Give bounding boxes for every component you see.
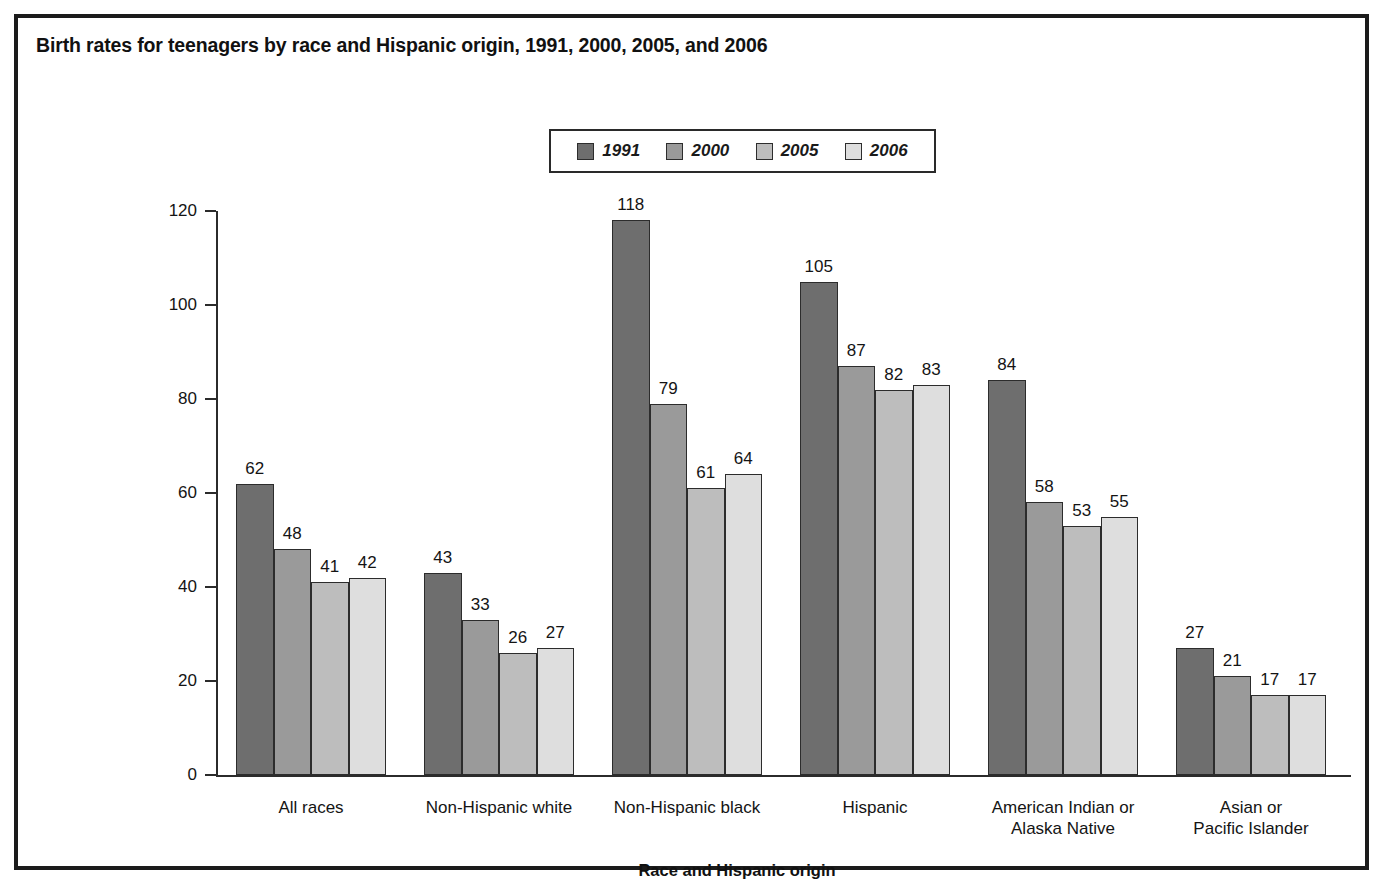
- legend-swatch-2005: [756, 143, 773, 160]
- legend-label-2005: 2005: [781, 141, 819, 161]
- group-label: Non-Hispanic white: [426, 797, 572, 818]
- legend-item-2005[interactable]: 2005: [756, 141, 819, 161]
- legend-label-2006: 2006: [870, 141, 908, 161]
- y-tick-label-120: 120: [135, 201, 197, 221]
- bar-value-label: 48: [283, 524, 302, 544]
- legend-swatch-1991: [577, 143, 594, 160]
- bar[interactable]: [875, 390, 913, 775]
- bar-value-label: 118: [617, 195, 644, 215]
- bar-value-label: 42: [358, 553, 377, 573]
- group-label-line: Non-Hispanic black: [614, 797, 760, 818]
- bar[interactable]: [1101, 517, 1139, 776]
- bar-value-label: 55: [1110, 492, 1129, 512]
- group-label-line: Pacific Islander: [1193, 818, 1308, 839]
- bar-value-label: 64: [734, 449, 753, 469]
- bar-value-label: 41: [320, 557, 339, 577]
- group-label: American Indian orAlaska Native: [992, 797, 1135, 839]
- legend-swatch-2000: [666, 143, 683, 160]
- bar[interactable]: [1214, 676, 1252, 775]
- y-tick-label-20: 20: [135, 671, 197, 691]
- bar-value-label: 17: [1298, 670, 1317, 690]
- x-axis-title: Race and Hispanic origin: [117, 861, 1357, 880]
- legend-item-2006[interactable]: 2006: [845, 141, 908, 161]
- bar-value-label: 82: [884, 365, 903, 385]
- bar-value-label: 53: [1072, 501, 1091, 521]
- bar-value-label: 21: [1223, 651, 1242, 671]
- bar[interactable]: [1251, 695, 1289, 775]
- bar[interactable]: [687, 488, 725, 775]
- y-tick-100: [205, 304, 216, 306]
- bar[interactable]: [838, 366, 876, 775]
- x-axis-line: [216, 775, 1351, 777]
- bar-value-label: 87: [847, 341, 866, 361]
- bar[interactable]: [612, 220, 650, 775]
- bar-value-label: 17: [1260, 670, 1279, 690]
- group-label-line: Asian or: [1193, 797, 1308, 818]
- bar[interactable]: [988, 380, 1026, 775]
- y-axis-line: [216, 211, 218, 777]
- bar[interactable]: [274, 549, 312, 775]
- bar-value-label: 62: [245, 459, 264, 479]
- bar-value-label: 26: [508, 628, 527, 648]
- group-label: All races: [278, 797, 343, 818]
- bar[interactable]: [349, 578, 387, 775]
- bar-value-label: 27: [546, 623, 565, 643]
- group-label-line: Hispanic: [842, 797, 907, 818]
- chart-legend: 1991 2000 2005 2006: [549, 129, 936, 173]
- figure-frame: Birth rates for teenagers by race and Hi…: [14, 14, 1369, 870]
- legend-item-2000[interactable]: 2000: [666, 141, 729, 161]
- bar[interactable]: [424, 573, 462, 775]
- plot-area: Rate per 1,000 females in specified grou…: [117, 211, 1357, 806]
- bar[interactable]: [236, 484, 274, 775]
- y-tick-40: [205, 586, 216, 588]
- chart-title: Birth rates for teenagers by race and Hi…: [36, 34, 767, 57]
- group-label: Asian orPacific Islander: [1193, 797, 1308, 839]
- legend-item-1991[interactable]: 1991: [577, 141, 640, 161]
- bar-value-label: 58: [1035, 477, 1054, 497]
- y-tick-label-100: 100: [135, 295, 197, 315]
- bar[interactable]: [311, 582, 349, 775]
- bar-value-label: 79: [659, 379, 678, 399]
- bar[interactable]: [650, 404, 688, 775]
- bar[interactable]: [800, 282, 838, 776]
- bar-value-label: 43: [433, 548, 452, 568]
- y-tick-80: [205, 398, 216, 400]
- bar[interactable]: [1026, 502, 1064, 775]
- bar-value-label: 61: [696, 463, 715, 483]
- bar-value-label: 27: [1185, 623, 1204, 643]
- group-label: Hispanic: [842, 797, 907, 818]
- bar-value-label: 84: [997, 355, 1016, 375]
- bar-value-label: 105: [805, 257, 833, 277]
- y-tick-120: [205, 210, 216, 212]
- bar[interactable]: [1063, 526, 1101, 775]
- bar[interactable]: [499, 653, 537, 775]
- y-tick-label-60: 60: [135, 483, 197, 503]
- y-tick-label-40: 40: [135, 577, 197, 597]
- y-tick-20: [205, 680, 216, 682]
- group-label-line: American Indian or: [992, 797, 1135, 818]
- y-tick-60: [205, 492, 216, 494]
- bar[interactable]: [725, 474, 763, 775]
- bar[interactable]: [1289, 695, 1327, 775]
- bar-value-label: 33: [471, 595, 490, 615]
- group-label-line: Alaska Native: [992, 818, 1135, 839]
- legend-label-2000: 2000: [691, 141, 729, 161]
- y-tick-label-0: 0: [135, 765, 197, 785]
- bar[interactable]: [913, 385, 951, 775]
- bar[interactable]: [462, 620, 500, 775]
- y-tick-label-80: 80: [135, 389, 197, 409]
- y-tick-0: [205, 774, 216, 776]
- bar-value-label: 83: [922, 360, 941, 380]
- legend-swatch-2006: [845, 143, 862, 160]
- legend-label-1991: 1991: [602, 141, 640, 161]
- group-label: Non-Hispanic black: [614, 797, 760, 818]
- bar[interactable]: [1176, 648, 1214, 775]
- group-label-line: Non-Hispanic white: [426, 797, 572, 818]
- bar[interactable]: [537, 648, 575, 775]
- group-label-line: All races: [278, 797, 343, 818]
